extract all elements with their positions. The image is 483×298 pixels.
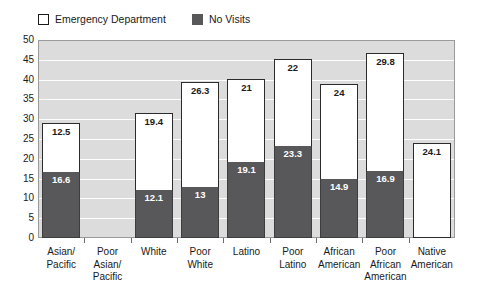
bar-slot: 2414.9 — [316, 40, 362, 238]
bar-segment-no-visits[interactable]: 13 — [181, 187, 219, 238]
x-axis-category-label-line: Pacific — [84, 271, 130, 284]
bar-segment-emergency-department[interactable]: 26.3 — [181, 82, 219, 186]
bar-slot: 2223.3 — [270, 40, 316, 238]
x-axis-category-label-line: Native — [409, 246, 455, 259]
x-axis-category-label: NativeAmerican — [409, 246, 455, 271]
white-box-icon — [38, 14, 49, 25]
x-axis-category-label-line: Pacific — [38, 259, 84, 272]
bar-slot: 2119.1 — [223, 40, 269, 238]
x-axis-category-label: PoorAfricanAmerican — [362, 246, 408, 284]
x-tick — [409, 238, 410, 243]
bar-segment-emergency-department[interactable]: 24.1 — [413, 143, 451, 238]
bar-group: 12.516.619.412.126.3132119.12223.32414.9… — [38, 40, 455, 238]
x-axis-category-label-line: African — [362, 259, 408, 272]
y-tick-label: 25 — [23, 134, 34, 144]
bar-slot: 29.816.9 — [362, 40, 408, 238]
stacked-bar[interactable]: 19.412.1 — [135, 113, 173, 238]
x-axis-ticks — [38, 238, 455, 244]
bar-value-label: 14.9 — [321, 182, 357, 192]
y-axis: 05101520253035404550 — [0, 40, 34, 238]
bar-segment-no-visits[interactable]: 23.3 — [274, 146, 312, 238]
bar-segment-emergency-department[interactable]: 22 — [274, 59, 312, 146]
bar-segment-emergency-department[interactable]: 12.5 — [42, 123, 80, 173]
legend-label-no-visits: No Visits — [209, 14, 250, 25]
x-axis-category-label: Latino — [223, 246, 269, 259]
bar-value-label: 29.8 — [367, 57, 403, 67]
y-tick-label: 5 — [28, 213, 34, 223]
bar-segment-emergency-department[interactable]: 24 — [320, 84, 358, 179]
x-axis-category-label-line: Poor — [270, 246, 316, 259]
x-axis-category-label-line: African — [316, 246, 362, 259]
x-axis-category-label-line: White — [131, 246, 177, 259]
stacked-bar[interactable]: 24.1 — [413, 143, 451, 238]
bar-value-label: 21 — [228, 83, 264, 93]
x-axis-category-label: PoorAsian/Pacific — [84, 246, 130, 284]
x-axis-category-label: AfricanAmerican — [316, 246, 362, 271]
bar-value-label: 12.5 — [43, 127, 79, 137]
y-tick-label: 20 — [23, 154, 34, 164]
y-tick-label: 50 — [23, 35, 34, 45]
x-tick — [84, 238, 85, 243]
chart-legend: Emergency Department No Visits — [38, 11, 250, 27]
x-axis-category-label-line: Poor — [362, 246, 408, 259]
x-tick — [270, 238, 271, 243]
stacked-bar[interactable]: 29.816.9 — [366, 53, 404, 238]
bar-value-label: 24 — [321, 88, 357, 98]
bar-slot — [84, 40, 130, 238]
x-axis-category-label-line: Poor — [84, 246, 130, 259]
legend-entry-no-visits: No Visits — [192, 14, 250, 25]
x-tick — [131, 238, 132, 243]
bar-segment-no-visits[interactable]: 12.1 — [135, 190, 173, 238]
bar-segment-emergency-department[interactable]: 19.4 — [135, 113, 173, 190]
bar-segment-no-visits[interactable]: 16.6 — [42, 172, 80, 238]
x-axis-category-label: PoorLatino — [270, 246, 316, 271]
bar-slot: 19.412.1 — [131, 40, 177, 238]
bar-segment-emergency-department[interactable]: 29.8 — [366, 53, 404, 171]
x-axis-category-label: White — [131, 246, 177, 259]
y-tick-label: 30 — [23, 114, 34, 124]
x-tick — [362, 238, 363, 243]
bar-value-label: 26.3 — [182, 86, 218, 96]
y-tick-label: 35 — [23, 94, 34, 104]
stacked-bar[interactable]: 2414.9 — [320, 84, 358, 238]
x-axis-category-label: Asian/Pacific — [38, 246, 84, 271]
bar-segment-no-visits[interactable]: 14.9 — [320, 179, 358, 238]
stacked-bar[interactable]: 26.313 — [181, 82, 219, 238]
y-tick-label: 40 — [23, 75, 34, 85]
y-tick-label: 10 — [23, 193, 34, 203]
x-axis-category-label-line: American — [409, 259, 455, 272]
stacked-bar[interactable]: 2119.1 — [227, 79, 265, 238]
legend-entry-emergency-department: Emergency Department — [38, 14, 166, 25]
x-axis-category-label-line: Latino — [270, 259, 316, 272]
bar-segment-no-visits[interactable]: 19.1 — [227, 162, 265, 238]
dark-box-icon — [192, 14, 203, 25]
bar-slot: 12.516.6 — [38, 40, 84, 238]
bar-value-label: 13 — [182, 190, 218, 200]
y-tick-label: 15 — [23, 174, 34, 184]
bar-value-label: 16.9 — [367, 174, 403, 184]
y-tick-label: 45 — [23, 55, 34, 65]
chart: 05101520253035404550 12.516.619.412.126.… — [0, 34, 483, 244]
bar-value-label: 23.3 — [275, 149, 311, 159]
x-axis-category-label-line: White — [177, 259, 223, 272]
bar-slot: 24.1 — [409, 40, 455, 238]
bar-segment-emergency-department[interactable]: 21 — [227, 79, 265, 162]
x-axis-category-label-line: American — [316, 259, 362, 272]
stacked-bar[interactable]: 2223.3 — [274, 59, 312, 238]
bar-segment-no-visits[interactable]: 16.9 — [366, 171, 404, 238]
x-tick — [316, 238, 317, 243]
stacked-bar[interactable]: 12.516.6 — [42, 123, 80, 238]
x-axis-category-label-line: Asian/ — [84, 259, 130, 272]
legend-label-emergency-department: Emergency Department — [55, 14, 166, 25]
x-axis-category-label-line: Poor — [177, 246, 223, 259]
bar-value-label: 12.1 — [136, 193, 172, 203]
y-tick-label: 0 — [28, 233, 34, 243]
bar-slot: 26.313 — [177, 40, 223, 238]
bar-value-label: 24.1 — [414, 147, 450, 157]
x-axis-category-label: PoorWhite — [177, 246, 223, 271]
x-axis-category-label-line: American — [362, 271, 408, 284]
bar-value-label: 19.4 — [136, 117, 172, 127]
x-tick — [177, 238, 178, 243]
x-axis-category-label-line: Latino — [223, 246, 269, 259]
bar-value-label: 22 — [275, 63, 311, 73]
